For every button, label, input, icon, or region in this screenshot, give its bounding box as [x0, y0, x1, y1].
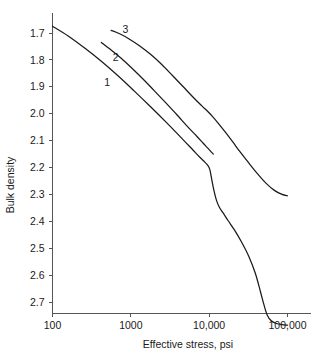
series-label-2: 2 [113, 51, 119, 63]
y-tick-label: 1.8 [30, 54, 45, 66]
x-tick-label: 10,000 [193, 319, 225, 331]
chart-plot: 1.71.81.92.02.12.22.32.42.52.62.7 100100… [0, 0, 325, 355]
chart-container: 1.71.81.92.02.12.22.32.42.52.62.7 100100… [0, 0, 325, 355]
x-tick-label: 100 [44, 319, 62, 331]
data-curve-3 [111, 30, 287, 195]
y-axis-tick-labels: 1.71.81.92.02.12.22.32.42.52.62.7 [30, 27, 45, 308]
data-curves [53, 26, 288, 325]
y-axis-title: Bulk density [4, 156, 16, 213]
y-tick-label: 2.5 [30, 242, 45, 254]
y-tick-label: 2.0 [30, 107, 45, 119]
y-tick-label: 2.7 [30, 296, 45, 308]
y-tick-label: 1.7 [30, 27, 45, 39]
y-tick-label: 2.2 [30, 161, 45, 173]
x-axis-tick-labels: 100100010,000100,000 [44, 319, 307, 331]
axes [53, 13, 311, 313]
data-curve-1 [53, 26, 288, 325]
axis-spines [53, 13, 311, 313]
y-tick-label: 2.3 [30, 188, 45, 200]
y-tick-label: 2.4 [30, 215, 45, 227]
series-labels: 123 [104, 23, 128, 88]
y-tick-label: 2.1 [30, 134, 45, 146]
tick-marks [49, 33, 288, 317]
series-label-3: 3 [122, 23, 128, 35]
x-tick-label: 1000 [119, 319, 143, 331]
series-label-1: 1 [104, 76, 110, 88]
y-tick-label: 1.9 [30, 80, 45, 92]
y-tick-label: 2.6 [30, 269, 45, 281]
x-axis-title: Effective stress, psi [143, 338, 233, 350]
